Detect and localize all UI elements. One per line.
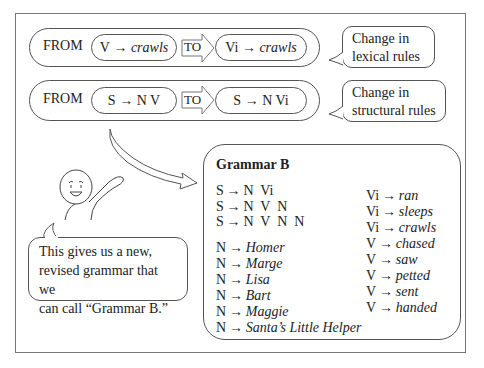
rule-lhs: V — [366, 268, 376, 283]
rule-rhs: ran — [399, 188, 418, 203]
speech-tail-cover — [45, 236, 58, 239]
rule-lhs: N — [216, 320, 226, 335]
verb-rule: V → saw — [366, 252, 418, 268]
verb-rule: Vi → crawls — [366, 220, 436, 236]
callout-line: Change in — [352, 84, 436, 102]
rule-lhs: V — [366, 236, 376, 251]
rule-rhs: N Vi — [262, 93, 289, 109]
rule-rhs: crawls — [131, 40, 168, 56]
rule-rhs: N V N N — [243, 214, 304, 229]
verb-rule: V → sent — [366, 284, 418, 300]
rule-arrow: → — [382, 204, 396, 219]
rule-arrow: → — [379, 284, 393, 299]
rule-rhs: Maggie — [246, 304, 289, 319]
rule-arrow: → — [382, 220, 396, 235]
rule-lhs: Vi — [366, 188, 379, 203]
noun-rule: N → Santa’s Little Helper — [216, 320, 361, 336]
rule-rhs: Lisa — [246, 272, 270, 287]
to-rule-structural: S → N Vi — [215, 87, 307, 114]
speech-line: can call “Grammar B.” — [39, 299, 177, 318]
rule-arrow: → — [242, 40, 256, 56]
rule-rhs: sleeps — [399, 204, 433, 219]
rule-arrow: → — [229, 288, 243, 303]
grammar-b-box: Grammar B S → N Vi S → N V N S → N V N N… — [203, 144, 461, 340]
rule-lhs: Vi — [366, 220, 379, 235]
verb-rule: V → chased — [366, 236, 435, 252]
smiling-stick-figure-icon — [55, 160, 145, 235]
from-label: FROM — [43, 91, 83, 107]
structural-rule: S → N V N N — [216, 214, 304, 230]
callout-line: structural rules — [352, 102, 436, 120]
rule-lhs: N — [216, 240, 226, 255]
noun-rule: N → Marge — [216, 256, 283, 272]
callout-line: Change in — [352, 30, 425, 48]
from-rule-lexical: V → crawls — [91, 34, 177, 61]
rule-arrow: → — [379, 236, 393, 251]
from-rule-structural: S → N V — [91, 87, 177, 114]
rule-lhs: S — [216, 183, 224, 198]
rule-arrow: → — [379, 300, 393, 315]
rule-arrow: → — [229, 272, 243, 287]
rule-arrow: → — [227, 183, 241, 198]
verb-rule: V → petted — [366, 268, 430, 284]
rule-rhs: saw — [396, 252, 418, 267]
noun-rule: N → Lisa — [216, 272, 270, 288]
rule-rhs: crawls — [399, 220, 436, 235]
rule-rhs: N Vi — [243, 183, 273, 198]
to-rule-lexical: Vi → crawls — [215, 34, 307, 61]
rule-rhs: Bart — [246, 288, 271, 303]
rule-lhs: V — [366, 300, 376, 315]
rule-rhs: N V — [137, 93, 160, 109]
rule-arrow: → — [229, 304, 243, 319]
rule-rhs: sent — [396, 284, 419, 299]
rule-arrow: → — [245, 93, 259, 109]
rule-lhs: S — [216, 199, 224, 214]
from-label: FROM — [43, 38, 83, 54]
verb-rule: V → handed — [366, 300, 437, 316]
rule-rhs: Homer — [246, 240, 285, 255]
rule-arrow: → — [227, 214, 241, 229]
rule-lhs: S — [216, 214, 224, 229]
structural-rule: S → N V N — [216, 199, 287, 215]
callout-structural: Change in structural rules — [342, 80, 446, 122]
rule-lhs: S — [233, 93, 241, 109]
callout-tail-icon — [328, 106, 344, 120]
speech-line: This gives us a new, — [39, 242, 177, 261]
rule-arrow: → — [382, 188, 396, 203]
rule-arrow: → — [229, 320, 243, 335]
rule-lhs: V — [366, 284, 376, 299]
rule-rhs: Santa’s Little Helper — [246, 320, 362, 335]
rule-lhs: N — [216, 288, 226, 303]
rule-rhs: crawls — [259, 40, 296, 56]
callout-tail-icon — [328, 52, 344, 66]
rule-lhs: V — [366, 252, 376, 267]
grammar-title: Grammar B — [216, 157, 289, 173]
rule-rhs: handed — [396, 300, 437, 315]
rule-arrow: → — [119, 93, 133, 109]
rule-lhs: Vi — [225, 40, 238, 56]
rule-lhs: N — [216, 272, 226, 287]
speech-line: revised grammar that we — [39, 261, 177, 299]
rule-arrow: → — [379, 252, 393, 267]
verb-rule: Vi → ran — [366, 188, 418, 204]
rule-lhs: N — [216, 256, 226, 271]
rule-arrow: → — [229, 240, 243, 255]
rule-lhs: Vi — [366, 204, 379, 219]
rule-arrow: → — [113, 40, 127, 56]
rule-lhs: V — [100, 40, 110, 56]
rule-arrow: → — [379, 268, 393, 283]
rule-lhs: S — [108, 93, 116, 109]
rule-rhs: petted — [396, 268, 430, 283]
rule-rhs: chased — [396, 236, 435, 251]
rule-lhs: N — [216, 304, 226, 319]
rule-rhs: Marge — [246, 256, 283, 271]
callout-lexical: Change in lexical rules — [342, 26, 435, 68]
speech-bubble: This gives us a new, revised grammar tha… — [28, 237, 188, 301]
rule-rhs: N V N — [243, 199, 287, 214]
to-label: TO — [184, 39, 201, 55]
to-label: TO — [184, 92, 201, 108]
noun-rule: N → Bart — [216, 288, 271, 304]
noun-rule: N → Maggie — [216, 304, 289, 320]
verb-rule: Vi → sleeps — [366, 204, 433, 220]
structural-rule: S → N Vi — [216, 183, 273, 199]
